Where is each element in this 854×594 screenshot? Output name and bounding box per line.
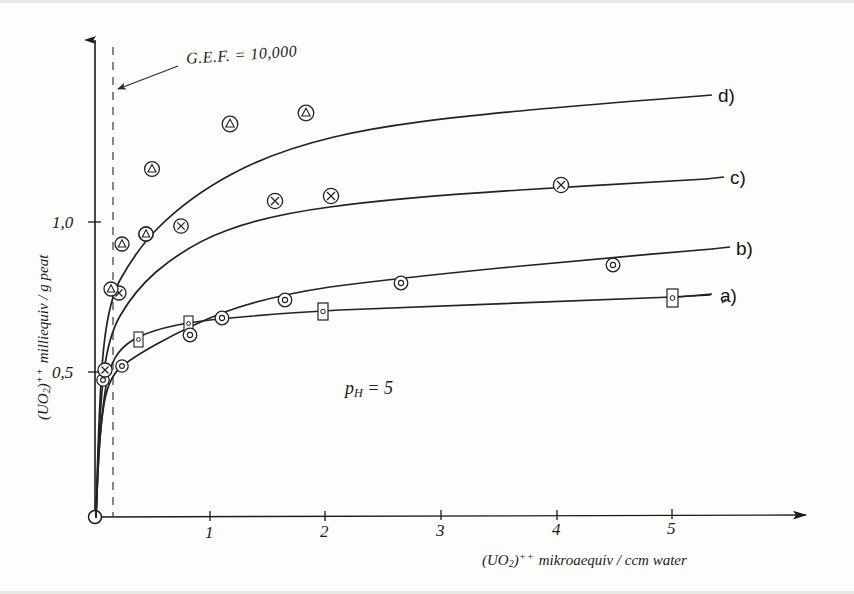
marker-c-6 [323, 188, 338, 203]
x-tick-label-1: 1 [205, 523, 214, 543]
marker-c-1 [98, 363, 112, 377]
x-axis-title-prefix: (UO [482, 552, 509, 568]
origin-marker [89, 511, 102, 524]
x-axis-title: (UO2)++ mikroaequiv / ccm water [482, 551, 687, 569]
y-axis-title-suffix: milliequiv / g peat [35, 255, 51, 367]
marker-b-3 [183, 328, 197, 342]
ph-symbol: p [345, 378, 354, 398]
marker-a-4 [667, 289, 678, 307]
curve-label-d: d) [718, 85, 735, 107]
leader-c [706, 177, 724, 179]
gef-leader-arrow [118, 66, 178, 89]
marker-c-7 [553, 177, 568, 192]
marker-b-2 [116, 360, 128, 372]
y-axis-title-prefix: (UO [35, 393, 51, 420]
y-axis-title-sup: ++ [34, 367, 45, 383]
curve-label-c: c) [730, 167, 746, 189]
figure-canvas: G.E.F. = 10,000 pH = 5 1,0 0,5 1 2 3 4 5… [0, 0, 854, 594]
y-tick-label-10: 1,0 [52, 213, 73, 233]
leader-d [700, 95, 712, 96]
marker-d-2 [115, 237, 129, 251]
x-tick-label-2: 2 [320, 522, 329, 542]
marker-d-6 [298, 105, 314, 121]
x-axis-line [95, 515, 806, 517]
curve-label-a: a) [720, 285, 737, 307]
leader-b [712, 247, 730, 249]
y-axis-title: (UO2)++ milliequiv / g peat [34, 255, 52, 420]
curve-label-b: b) [736, 238, 753, 260]
y-axis-title-sub: 2 [41, 388, 52, 393]
marker-c-5 [267, 193, 282, 208]
curve-end-leaders [678, 95, 730, 297]
x-tick-label-5: 5 [667, 519, 676, 539]
axis-lines [89, 40, 807, 524]
y-axis-title-mid: ) [35, 383, 51, 388]
marker-b-7 [606, 258, 620, 272]
x-axis-title-suffix: mikroaequiv / ccm water [535, 552, 687, 568]
marker-d-1 [104, 282, 118, 296]
x-tick-label-3: 3 [436, 521, 445, 541]
curve-d-line [96, 96, 700, 517]
curve-b-markers [97, 258, 620, 386]
marker-a-3 [318, 303, 328, 320]
ph-annotation: pH = 5 [345, 378, 393, 401]
ph-subscript: H [354, 386, 363, 400]
marker-d-3 [139, 227, 153, 241]
marker-d-5 [222, 116, 238, 132]
marker-a-1 [134, 332, 143, 347]
x-tick-label-4: 4 [552, 520, 561, 540]
marker-b-5 [278, 293, 292, 307]
marker-b-4 [215, 311, 229, 325]
x-axis-title-sup: ++ [519, 551, 535, 562]
y-tick-label-05: 0,5 [52, 363, 73, 383]
marker-d-4 [145, 162, 160, 177]
marker-c-4 [174, 219, 188, 233]
ph-value: = 5 [363, 378, 393, 398]
marker-b-6 [394, 276, 408, 290]
